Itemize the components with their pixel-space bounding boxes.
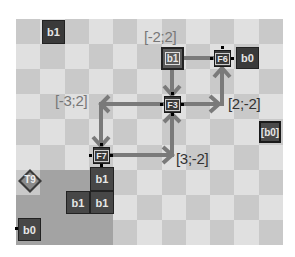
block-b1[interactable]: b1	[66, 191, 90, 214]
block-b1[interactable]: b1	[42, 20, 65, 44]
connector-dot	[100, 143, 103, 146]
node-f3-label: F3	[165, 99, 180, 111]
node-f3[interactable]: F3	[164, 96, 181, 113]
block-b0-bracketed[interactable]: [b0]	[259, 121, 281, 143]
node-t9-label: T9	[17, 174, 43, 185]
node-f6[interactable]: F6	[214, 50, 231, 67]
connector-dot	[100, 164, 103, 167]
block-b0[interactable]: b0	[236, 47, 259, 69]
connector-dot	[15, 227, 18, 230]
block-b1[interactable]: b1	[90, 167, 114, 191]
connector-dot	[110, 154, 113, 157]
junction-block-b1[interactable]: b1	[161, 47, 184, 70]
connector-dot	[171, 113, 174, 116]
connector-dot	[231, 57, 234, 60]
connector-dot	[210, 57, 213, 60]
coord-label-bottom: [3;-2]	[176, 150, 208, 167]
connector-dot	[160, 103, 163, 106]
junction-label: b1	[165, 52, 181, 65]
connector-dot	[89, 154, 92, 157]
connector-dot	[221, 46, 224, 49]
connector-dot	[181, 103, 184, 106]
coord-label-top: [-2;2]	[144, 28, 176, 45]
connector-dot	[171, 92, 174, 95]
coord-label-left: [-3;2]	[55, 92, 87, 109]
node-f6-label: F6	[215, 53, 230, 65]
node-f7[interactable]: F7	[93, 147, 110, 164]
node-t9[interactable]: T9	[17, 168, 43, 194]
block-b0[interactable]: b0	[18, 218, 41, 241]
node-f7-label: F7	[94, 150, 109, 162]
coord-label-right: [2;-2]	[228, 95, 260, 112]
block-b1[interactable]: b1	[90, 191, 114, 214]
